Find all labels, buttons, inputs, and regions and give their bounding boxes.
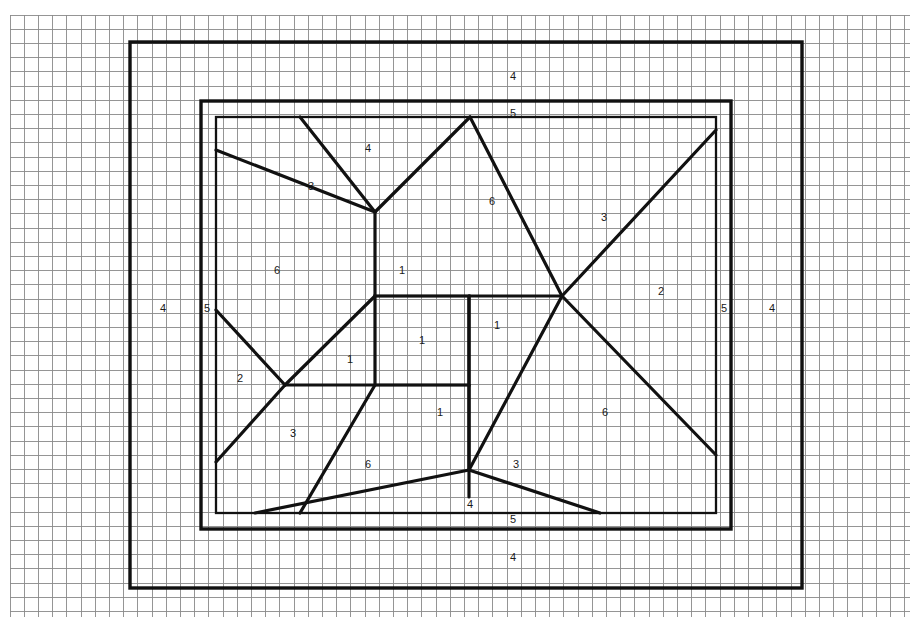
part-label-p-4-left-outer: 4 [160,303,166,314]
drawing-canvas: 4543636124554111216363454 [0,0,917,631]
part-label-p-6-upper-mid: 6 [489,196,495,207]
inner-frame [201,101,731,529]
part-label-p-4-upper-left: 4 [365,143,371,154]
inner-frame-rect [201,101,731,529]
panel-border-rect [216,117,716,513]
part-label-p-4-right-outer: 4 [769,303,775,314]
part-label-p-5-bottom: 5 [510,514,516,525]
part-label-p-2-left: 2 [237,373,243,384]
part-label-p-1-lower: 1 [437,407,443,418]
panel-border [216,117,716,513]
part-label-p-1-center-left: 1 [347,354,353,365]
part-label-p-6-lower-right: 6 [602,407,608,418]
part-label-p-6-lower-left: 6 [365,459,371,470]
part-label-p-3-upper-left: 3 [308,181,314,192]
part-label-p-3-lower-right: 3 [513,459,519,470]
part-label-p-1-center: 1 [419,335,425,346]
part-label-p-2-right: 2 [658,286,664,297]
part-label-p-1-upper: 1 [399,265,405,276]
part-label-p-5-left: 5 [204,303,210,314]
construction-lines-svg [0,0,917,631]
part-label-p-5-right: 5 [721,303,727,314]
part-label-p-5-top: 5 [510,108,516,119]
part-label-p-4-bottom-mid: 4 [467,499,473,510]
diagonal-braces [216,117,716,513]
part-label-p-6-left: 6 [274,265,280,276]
part-label-p-1-center-right: 1 [494,320,500,331]
part-label-p-3-lower-left: 3 [290,428,296,439]
part-label-p-4-bottom: 4 [510,552,516,563]
part-label-p-4-top: 4 [510,71,516,82]
part-label-p-3-upper-right: 3 [601,212,607,223]
